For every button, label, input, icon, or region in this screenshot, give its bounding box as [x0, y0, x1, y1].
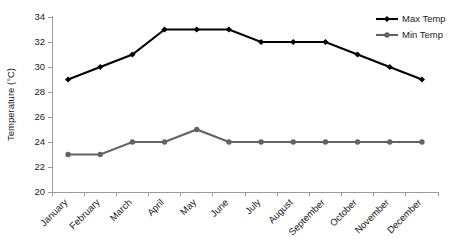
data-point [322, 39, 328, 45]
data-point [291, 139, 296, 144]
data-point [323, 139, 328, 144]
data-point [226, 26, 232, 32]
y-axis-tick-label: 34 [34, 11, 45, 22]
x-axis-tick-label: August [266, 196, 295, 225]
y-axis-tick-label: 20 [34, 186, 45, 197]
y-axis-tick-label: 24 [34, 136, 45, 147]
data-point [290, 39, 296, 45]
data-point [354, 51, 360, 57]
data-point [355, 139, 360, 144]
x-axis-tick-label: January [38, 196, 70, 228]
x-axis-tick-label: June [208, 197, 230, 219]
legend-label: Min Temp [402, 29, 443, 40]
data-point [226, 139, 231, 144]
x-axis-tick-label: February [67, 196, 102, 231]
data-point [419, 139, 424, 144]
data-point [194, 127, 199, 132]
y-axis-tick-label: 22 [34, 161, 45, 172]
x-axis-tick-label: December [385, 197, 424, 236]
x-axis-tick-label: March [107, 197, 133, 223]
y-axis-tick-label: 30 [34, 61, 45, 72]
y-axis-tick-label: 28 [34, 86, 45, 97]
data-point [419, 76, 425, 82]
legend-swatch-marker [384, 16, 390, 22]
series-max-temp [65, 26, 425, 82]
legend-item[interactable]: Min Temp [376, 29, 443, 40]
x-axis-tick-label: July [243, 196, 263, 216]
data-point [258, 139, 263, 144]
x-axis-tick-label: October [327, 197, 359, 229]
data-point [98, 152, 103, 157]
series-line [68, 30, 422, 80]
x-axis-tick-label: May [178, 196, 199, 217]
x-axis-tick-label: April [145, 197, 166, 218]
data-point [258, 39, 264, 45]
y-axis-title: Temperature (°C) [5, 68, 16, 141]
series-min-temp [65, 127, 424, 157]
data-point [97, 64, 103, 70]
chart-canvas: 2022242628303234JanuaryFebruaryMarchApri… [0, 0, 462, 250]
y-axis-tick-label: 32 [34, 36, 45, 47]
legend-swatch-marker [384, 32, 389, 37]
legend-item[interactable]: Max Temp [376, 13, 446, 24]
data-point [194, 26, 200, 32]
data-point [130, 139, 135, 144]
y-axis-tick-label: 26 [34, 111, 45, 122]
temperature-line-chart: 2022242628303234JanuaryFebruaryMarchApri… [0, 0, 462, 250]
series-line [68, 130, 422, 155]
data-point [387, 139, 392, 144]
data-point [65, 152, 70, 157]
data-point [387, 64, 393, 70]
chart-legend: Max TempMin Temp [376, 13, 446, 40]
data-point [65, 76, 71, 82]
data-point [162, 139, 167, 144]
legend-label: Max Temp [402, 13, 446, 24]
